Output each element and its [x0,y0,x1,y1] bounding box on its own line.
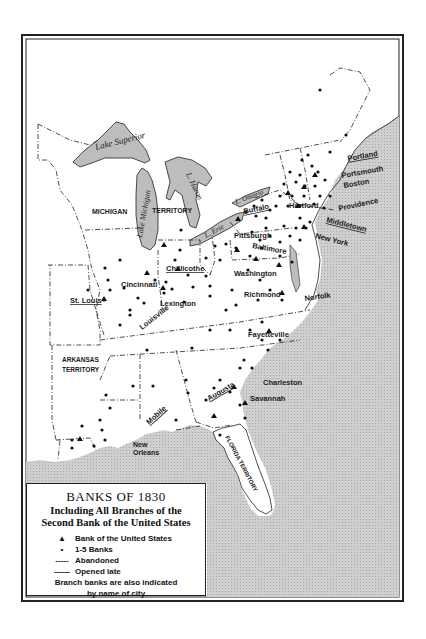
city-washington: Washington [234,269,277,278]
city-cincinnati: Cincinnati [121,280,157,289]
city-new-orleans-1: New [133,441,148,448]
legend-subtitle-2: Second Bank of the United States [27,517,205,529]
michigan-territory-label: MICHIGAN [92,208,127,215]
map-legend: BANKS OF 1830 Including All Branches of … [26,483,206,596]
city-chillicothe: Chillicothe [166,264,204,273]
solid-line-icon: —— [49,566,75,577]
dot-icon: • [49,544,75,555]
legend-row-banks: •1-5 Banks [49,544,205,555]
city-hartford: Hartford [289,201,319,210]
legend-subtitle-1: Including All Branches of the [27,505,205,517]
legend-note-1: Branch banks are also indicated [27,578,205,588]
legend-note-2: by name of city [27,589,205,599]
michigan-territory-label-2: TERRITORY [152,207,192,214]
legend-label-abandoned: Abandoned [75,556,119,565]
legend-row-abandoned: -----Abandoned [49,555,205,566]
triangle-icon: ▲ [49,533,75,544]
legend-label-opened-late: Opened late [75,567,121,576]
arkansas-territory-label: ARKANSAS [62,356,100,363]
city-richmond: Richmond [244,290,281,299]
city-savannah: Savannah [250,394,286,403]
city-charleston: Charleston [263,378,303,387]
dashed-line-icon: ----- [49,555,75,566]
city-new-orleans-2: Orleans [133,449,159,456]
city-fayetteville: Fayetteville [248,330,289,339]
city-pittsburgh: Pittsburgh [234,231,272,240]
legend-label-bus: Bank of the United States [75,534,172,543]
city-st-louis: St. Louis [70,296,102,305]
legend-title: BANKS OF 1830 [27,489,205,505]
legend-row-bus: ▲Bank of the United States [49,533,205,544]
legend-row-opened-late: ——Opened late [49,566,205,577]
legend-label-banks: 1-5 Banks [75,545,113,554]
arkansas-territory-label-2: TERRITORY [62,366,100,373]
